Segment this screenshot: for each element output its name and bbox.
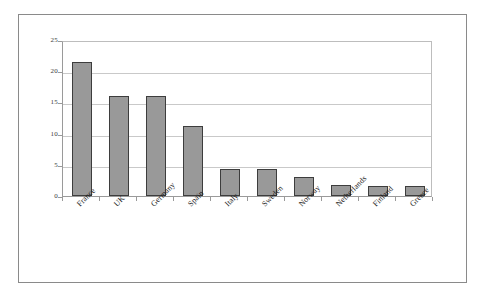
x-axis-tick-mark	[173, 197, 174, 201]
plot-area	[62, 41, 432, 197]
bar-spain	[183, 126, 203, 196]
bar-germany	[146, 96, 166, 196]
x-axis-tick-mark	[99, 197, 100, 201]
y-axis-tick-mark	[58, 41, 62, 42]
x-axis-tick-mark	[284, 197, 285, 201]
y-axis-tick-mark	[58, 166, 62, 167]
x-axis-tick-mark	[395, 197, 396, 201]
y-axis-tick-label: 15	[18, 99, 58, 106]
y-axis-tick-mark	[58, 135, 62, 136]
y-axis-tick-label: 5	[18, 162, 58, 169]
x-axis-tick-mark	[62, 197, 63, 201]
y-axis-tick-mark	[58, 103, 62, 104]
gridline	[63, 73, 431, 74]
x-axis-tick-mark	[247, 197, 248, 201]
x-axis-tick-mark	[321, 197, 322, 201]
bar-italy	[220, 169, 240, 196]
y-axis-tick-mark	[58, 72, 62, 73]
bar-france	[72, 62, 92, 196]
x-axis-tick-mark	[432, 197, 433, 201]
y-axis-tick-label: 25	[18, 37, 58, 44]
y-axis-tick-label: 0	[18, 193, 58, 200]
chart-figure: 0510152025FranceUKGermanySpainItalySwede…	[0, 0, 488, 298]
x-axis-tick-mark	[358, 197, 359, 201]
bar-uk	[109, 96, 129, 196]
y-axis-tick-label: 10	[18, 131, 58, 138]
x-axis-tick-mark	[210, 197, 211, 201]
x-axis-tick-mark	[136, 197, 137, 201]
y-axis-tick-label: 20	[18, 68, 58, 75]
